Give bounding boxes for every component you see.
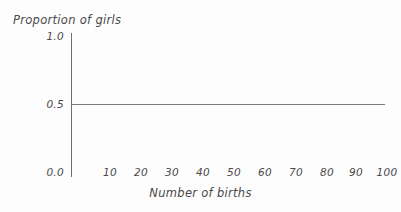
x-tick-label-60: 60	[248, 166, 282, 178]
x-axis-title: Number of births	[0, 186, 401, 200]
x-tick-label-10: 10	[93, 166, 127, 178]
chart-container: Proportion of girls 1.0 0.5 0.0 10 20 30…	[0, 0, 401, 212]
x-tick-label-90: 90	[339, 166, 373, 178]
y-tick-label-1-0: 1.0	[20, 30, 64, 42]
x-tick-label-70: 70	[279, 166, 313, 178]
y-axis-title: Proportion of girls	[13, 13, 121, 27]
y-tick-label-0-5: 0.5	[20, 98, 64, 110]
data-series-line	[71, 104, 385, 105]
x-tick-label-30: 30	[155, 166, 189, 178]
y-tick-label-0-0: 0.0	[20, 166, 64, 178]
x-tick-label-40: 40	[186, 166, 220, 178]
x-tick-label-50: 50	[217, 166, 251, 178]
x-tick-label-20: 20	[124, 166, 158, 178]
x-tick-label-100: 100	[370, 166, 401, 178]
y-axis-line	[71, 33, 72, 177]
